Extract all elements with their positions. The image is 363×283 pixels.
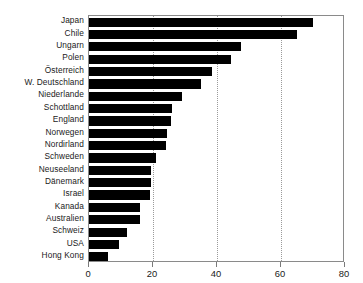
- category-label: Schottland: [0, 103, 84, 112]
- category-label: Dänemark: [0, 177, 84, 186]
- bar: [89, 116, 171, 125]
- bar: [89, 190, 150, 199]
- category-label: W. Deutschland: [0, 78, 84, 87]
- category-label: Chile: [0, 29, 84, 38]
- category-label: Schweiz: [0, 226, 84, 235]
- bar: [89, 178, 151, 187]
- plot-area: [88, 15, 344, 262]
- category-label: Norwegen: [0, 128, 84, 137]
- category-label: Polen: [0, 53, 84, 62]
- bar: [89, 42, 241, 51]
- category-label: Hong Kong: [0, 251, 84, 260]
- bar: [89, 141, 166, 150]
- category-label: Neuseeland: [0, 165, 84, 174]
- bar: [89, 203, 140, 212]
- category-label: Israel: [0, 189, 84, 198]
- x-tick-20: [152, 262, 153, 267]
- x-tick-0: [88, 262, 89, 267]
- x-tick-label: 60: [275, 268, 285, 279]
- bar-chart: JapanChileUngarnPolenÖsterreichW. Deutsc…: [0, 0, 363, 283]
- x-tick-label: 80: [339, 268, 349, 279]
- x-tick-60: [280, 262, 281, 267]
- category-label: Ungarn: [0, 41, 84, 50]
- x-tick-label: 0: [85, 268, 90, 279]
- bar: [89, 215, 140, 224]
- category-label: Japan: [0, 16, 84, 25]
- bar: [89, 252, 108, 261]
- category-label: Nordirland: [0, 140, 84, 149]
- bar: [89, 79, 201, 88]
- category-label: Schweden: [0, 152, 84, 161]
- category-label: Niederlande: [0, 90, 84, 99]
- x-tick-40: [216, 262, 217, 267]
- bar: [89, 166, 151, 175]
- bar: [89, 30, 297, 39]
- x-tick-label: 20: [147, 268, 157, 279]
- x-tick-80: [344, 262, 345, 267]
- category-label: England: [0, 115, 84, 124]
- category-label: Australien: [0, 214, 84, 223]
- bar: [89, 104, 172, 113]
- bar: [89, 153, 156, 162]
- category-label: Kanada: [0, 202, 84, 211]
- category-label: Österreich: [0, 66, 84, 75]
- bar: [89, 228, 127, 237]
- bar: [89, 18, 313, 27]
- bar: [89, 92, 182, 101]
- bars: [89, 16, 343, 261]
- category-label: USA: [0, 239, 84, 248]
- x-tick-label: 40: [211, 268, 221, 279]
- bar: [89, 129, 167, 138]
- category-axis-labels: JapanChileUngarnPolenÖsterreichW. Deutsc…: [0, 15, 84, 262]
- bar: [89, 55, 231, 64]
- bar: [89, 67, 212, 76]
- bar: [89, 240, 119, 249]
